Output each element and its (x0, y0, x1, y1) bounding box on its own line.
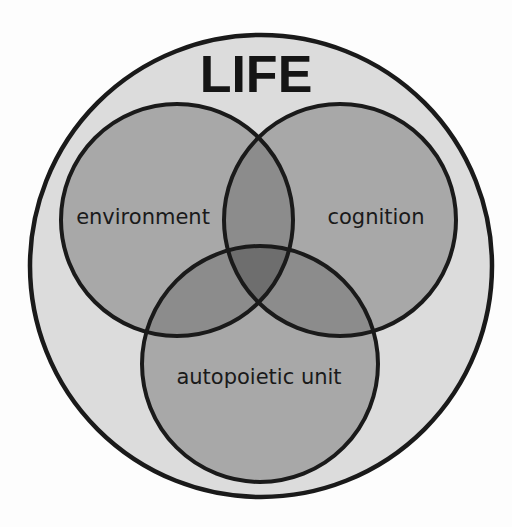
cognition-label: cognition (327, 205, 424, 229)
venn-diagram: LIFE environment cognition autopoietic u… (0, 0, 512, 527)
diagram-title: LIFE (200, 45, 313, 103)
autopoietic-unit-label: autopoietic unit (176, 365, 341, 389)
environment-label: environment (76, 205, 210, 229)
